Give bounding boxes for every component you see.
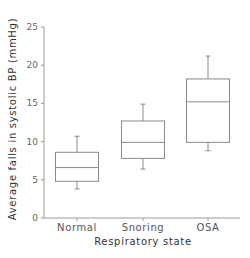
y-tick-label: 10 (27, 137, 39, 147)
x-axis: NormalSnoringOSA (44, 218, 240, 233)
x-axis-title: Respiratory state (94, 236, 192, 247)
y-tick-label: 20 (27, 60, 39, 70)
iqr-box (56, 152, 99, 181)
x-tick-label: Snoring (122, 222, 165, 233)
y-tick-label: 0 (32, 213, 38, 223)
box-plot-chart: 0510152025 NormalSnoringOSA Average fall… (0, 0, 250, 258)
iqr-box (122, 121, 165, 158)
x-tick-label: Normal (57, 222, 97, 233)
y-tick-label: 15 (27, 98, 38, 108)
box-normal (56, 136, 99, 189)
iqr-box (187, 79, 230, 142)
box-plot-series (56, 56, 230, 189)
y-tick-label: 5 (32, 175, 38, 185)
box-snoring (122, 104, 165, 169)
y-axis: 0510152025 (27, 22, 44, 223)
y-tick-label: 25 (27, 22, 38, 32)
box-osa (187, 56, 230, 151)
y-axis-title: Average falls in systolic BP (mmHg) (7, 18, 18, 220)
x-tick-label: OSA (196, 222, 219, 233)
